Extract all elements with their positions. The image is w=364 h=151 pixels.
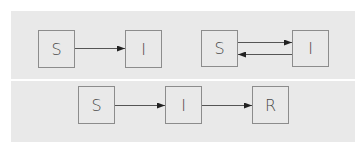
sis-node-s: S — [201, 30, 238, 67]
compartmental-models-figure: S I S I S I R — [0, 0, 364, 151]
si-node-i: I — [125, 30, 162, 68]
sir-node-i: I — [165, 86, 202, 124]
sir-node-r: R — [252, 86, 289, 124]
sir-node-s: S — [78, 86, 115, 124]
sis-node-i: I — [292, 30, 329, 67]
si-node-s: S — [38, 30, 75, 68]
